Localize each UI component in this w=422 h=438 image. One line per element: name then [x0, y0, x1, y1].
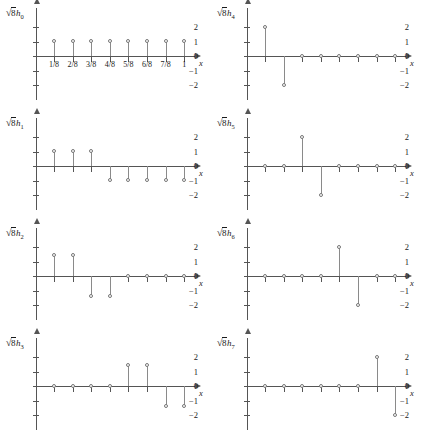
stem-line	[321, 166, 322, 195]
stem-line	[395, 386, 396, 415]
data-point-marker	[89, 294, 93, 298]
data-point-marker	[393, 164, 397, 168]
stem-line	[128, 42, 129, 57]
y-tick	[33, 247, 39, 248]
y-tick	[244, 386, 250, 387]
x-tick-label: 7/8	[160, 61, 170, 69]
y-tick-label: −1	[400, 67, 409, 76]
data-point-marker	[145, 363, 149, 367]
stem-line	[128, 366, 129, 386]
data-point-marker	[52, 149, 56, 153]
plot-panel-h4: √8h4x210−1−2	[211, 0, 422, 110]
data-point-marker	[375, 355, 379, 359]
x-axis-label: x	[410, 168, 414, 178]
data-point-marker	[337, 164, 341, 168]
stem-line	[184, 42, 185, 57]
x-tick-label: 3/8	[86, 61, 96, 69]
stem-line	[147, 366, 148, 386]
x-tick-label: 6/8	[142, 61, 152, 69]
data-point-marker	[52, 253, 56, 257]
y-tick-label: 1	[194, 258, 198, 267]
data-point-marker	[145, 39, 149, 43]
data-point-marker	[393, 274, 397, 278]
stem-line	[147, 42, 148, 57]
y-axis	[247, 8, 248, 100]
y-tick-label: −1	[189, 67, 198, 76]
y-tick-label: 2	[194, 23, 198, 32]
y-tick-label: 2	[405, 243, 409, 252]
stem-line	[110, 42, 111, 57]
data-point-marker	[71, 39, 75, 43]
data-point-marker	[89, 39, 93, 43]
y-tick-label: −2	[400, 411, 409, 420]
stem-line	[166, 42, 167, 57]
y-tick	[33, 386, 39, 387]
x-tick	[91, 166, 92, 172]
y-tick	[244, 357, 250, 358]
y-tick-label: −1	[400, 287, 409, 296]
data-point-marker	[263, 25, 267, 29]
data-point-marker	[300, 274, 304, 278]
data-point-marker	[52, 39, 56, 43]
y-axis-arrow	[245, 108, 251, 114]
data-point-marker	[126, 274, 130, 278]
y-tick	[33, 56, 39, 57]
y-tick-label: 1	[405, 258, 409, 267]
y-tick	[33, 291, 39, 292]
data-point-marker	[126, 178, 130, 182]
stem-line	[377, 357, 378, 386]
y-tick-label: −1	[189, 177, 198, 186]
x-tick	[54, 166, 55, 172]
y-axis-arrow	[245, 328, 251, 334]
plot-area: x210−1−2	[247, 124, 415, 208]
y-tick	[244, 137, 250, 138]
data-point-marker	[263, 384, 267, 388]
y-tick-label: 0	[194, 382, 198, 391]
data-point-marker	[182, 39, 186, 43]
y-tick	[244, 401, 250, 402]
y-tick	[33, 152, 39, 153]
y-tick-label: 2	[405, 353, 409, 362]
y-tick-label: 0	[194, 52, 198, 61]
data-point-marker	[71, 384, 75, 388]
y-axis	[36, 8, 37, 100]
panel-label-h2: √8h2	[6, 228, 24, 240]
data-point-marker	[356, 164, 360, 168]
plot-area: x210−1−2	[247, 344, 415, 428]
y-tick	[244, 181, 250, 182]
y-tick	[244, 85, 250, 86]
y-axis-arrow	[34, 108, 40, 114]
x-axis-label: x	[199, 168, 203, 178]
y-tick	[244, 262, 250, 263]
x-axis	[36, 386, 196, 387]
y-tick	[244, 166, 250, 167]
data-point-marker	[282, 83, 286, 87]
data-point-marker	[164, 39, 168, 43]
y-tick-label: 0	[405, 162, 409, 171]
data-point-marker	[145, 274, 149, 278]
x-tick-label: 4/8	[105, 61, 115, 69]
x-tick-label: 5/8	[123, 61, 133, 69]
plot-area: x210−1−2	[36, 234, 204, 318]
data-point-marker	[356, 303, 360, 307]
y-tick-label: −1	[400, 177, 409, 186]
y-axis	[247, 118, 248, 210]
y-tick	[244, 305, 250, 306]
stem-line	[302, 137, 303, 166]
x-tick-label: 2/8	[67, 61, 77, 69]
stem-line	[265, 27, 266, 56]
plot-area: x210−1−2	[36, 344, 204, 428]
y-tick-label: 0	[405, 382, 409, 391]
y-tick-label: 2	[405, 133, 409, 142]
y-axis-arrow	[245, 0, 251, 4]
y-tick-label: −2	[189, 191, 198, 200]
data-point-marker	[282, 274, 286, 278]
y-tick	[33, 372, 39, 373]
y-tick	[244, 42, 250, 43]
data-point-marker	[375, 164, 379, 168]
y-tick	[244, 291, 250, 292]
x-axis-label: x	[410, 388, 414, 398]
y-tick	[33, 305, 39, 306]
x-axis	[247, 276, 407, 277]
data-point-marker	[356, 54, 360, 58]
